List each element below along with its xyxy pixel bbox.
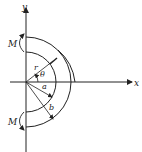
moment-top-label: M	[7, 39, 18, 49]
theta-arc	[35, 74, 38, 82]
radius-a-ray	[26, 82, 52, 97]
x-axis-label: x	[134, 78, 139, 88]
outer-gap-arc	[58, 50, 75, 82]
theta-label: θ	[40, 70, 45, 79]
radius-b-ray	[26, 82, 53, 119]
moment-bottom-arrow	[20, 112, 25, 130]
radius-r-label: r	[34, 63, 39, 72]
outer-radius-label: b	[49, 103, 54, 112]
y-axis-label: y	[21, 2, 28, 12]
ring-diagram: y x r θ a b M M	[0, 0, 142, 152]
moment-top-arrow	[20, 34, 25, 52]
moment-bottom-label: M	[7, 117, 18, 127]
inner-radius-label: a	[42, 82, 47, 91]
radius-r-tick	[50, 58, 57, 64]
